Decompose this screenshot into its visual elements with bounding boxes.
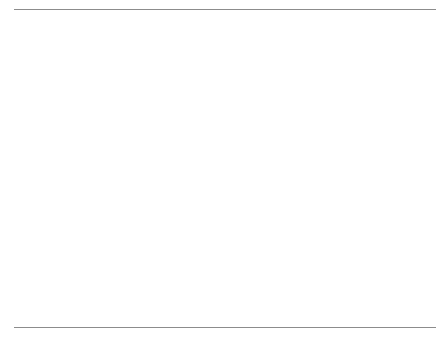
chart-figure — [0, 0, 447, 337]
chart-plot — [0, 0, 447, 337]
